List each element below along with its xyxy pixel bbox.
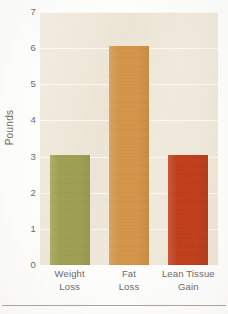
x-label-lean-tissue-gain: Lean TissueGain	[155, 268, 222, 293]
bar-texture	[168, 155, 208, 265]
y-axis-title: Pounds	[4, 98, 15, 158]
y-tick-label-5: 5	[2, 79, 36, 89]
x-label-line: Fat	[95, 268, 162, 281]
x-label-line: Loss	[36, 281, 103, 294]
x-label-line: Lean Tissue	[155, 268, 222, 281]
y-tick-label-0: 0	[2, 260, 36, 270]
x-label-weight-loss: WeightLoss	[36, 268, 103, 293]
bar-chart-figure: 01234567 Pounds WeightLossFatLossLean Ti…	[0, 0, 228, 314]
x-label-line: Gain	[155, 281, 222, 294]
y-tick-label-2: 2	[2, 188, 36, 198]
gridline-7	[40, 12, 218, 13]
y-tick-label-7: 7	[2, 7, 36, 17]
x-label-line: Loss	[95, 281, 162, 294]
bar-texture	[109, 46, 149, 265]
bar-weight-loss	[50, 155, 90, 265]
x-label-fat-loss: FatLoss	[95, 268, 162, 293]
x-axis-category-labels: WeightLossFatLossLean TissueGain	[40, 268, 218, 298]
bar-fat-loss	[109, 46, 149, 265]
bar-texture	[50, 155, 90, 265]
bar-lean-tissue-gain	[168, 155, 208, 265]
x-label-line: Weight	[36, 268, 103, 281]
y-tick-label-6: 6	[2, 43, 36, 53]
y-tick-label-1: 1	[2, 224, 36, 234]
plot-area	[40, 12, 218, 265]
bottom-divider	[2, 305, 226, 306]
